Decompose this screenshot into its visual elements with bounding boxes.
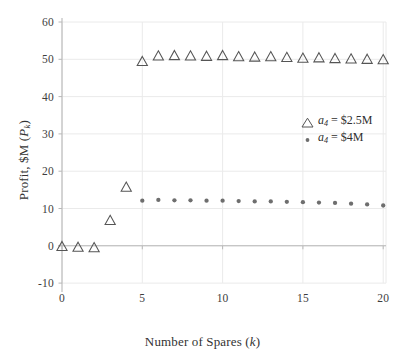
y-axis-label-close: ) <box>16 120 31 124</box>
data-point-triangle <box>185 51 195 60</box>
legend-entry-0: a4 = $2.5M <box>296 114 373 131</box>
data-point-triangle <box>346 54 356 63</box>
y-tick-label: 60 <box>22 16 54 28</box>
data-point-dot <box>365 202 369 206</box>
x-tick-label: 10 <box>217 292 229 304</box>
data-point-dot <box>204 199 208 203</box>
data-point-dot <box>301 200 305 204</box>
y-axis-label: Profit, $M (Pk) <box>16 50 32 270</box>
data-point-triangle <box>73 242 83 251</box>
y-tick-label: -10 <box>18 277 54 289</box>
data-point-dot <box>172 198 176 202</box>
legend-label-1: a4 = $4M <box>318 129 364 149</box>
x-axis-label-text: Number of Spares ( <box>145 334 250 349</box>
y-axis-label-text: Profit, $M ( <box>16 137 31 201</box>
data-point-dot <box>188 198 192 202</box>
x-tick-label: 5 <box>139 292 145 304</box>
triangle-open-icon <box>296 117 318 128</box>
data-point-dot <box>220 199 224 203</box>
dot-filled-icon <box>296 134 318 145</box>
x-axis-label-close: ) <box>256 334 260 349</box>
legend-eq-1: = $4M <box>328 130 363 144</box>
x-tick-label: 15 <box>297 292 309 304</box>
data-point-triangle <box>330 53 340 62</box>
data-point-triangle <box>89 243 99 252</box>
data-point-dot <box>317 200 321 204</box>
scatter-plot-canvas <box>0 0 405 363</box>
y-axis-label-var: P <box>16 129 31 137</box>
data-point-dot <box>349 202 353 206</box>
series-1 <box>140 198 385 208</box>
data-point-dot <box>237 199 241 203</box>
data-point-triangle <box>314 53 324 62</box>
data-point-dot <box>253 199 257 203</box>
x-axis-label: Number of Spares (k) <box>0 334 405 350</box>
data-point-triangle <box>121 182 131 191</box>
data-point-dot <box>156 198 160 202</box>
data-point-dot <box>333 201 337 205</box>
legend-entry-1: a4 = $4M <box>296 131 373 148</box>
x-tick-label: 20 <box>377 292 389 304</box>
data-point-dot <box>140 199 144 203</box>
data-point-dot <box>269 199 273 203</box>
data-point-triangle <box>169 50 179 59</box>
x-tick-label: 0 <box>59 292 65 304</box>
data-point-triangle <box>362 54 372 63</box>
data-point-dot <box>285 200 289 204</box>
data-point-triangle <box>282 52 292 61</box>
y-axis-label-sub: k <box>22 124 32 128</box>
data-point-dot <box>381 203 385 207</box>
data-point-triangle <box>105 215 115 224</box>
chart-figure: 60 50 40 30 20 10 0 -10 0 5 10 15 20 Num… <box>0 0 405 363</box>
data-point-triangle <box>153 51 163 60</box>
legend-eq-0: = $2.5M <box>328 113 372 127</box>
chart-legend: a4 = $2.5M a4 = $4M <box>296 114 373 148</box>
